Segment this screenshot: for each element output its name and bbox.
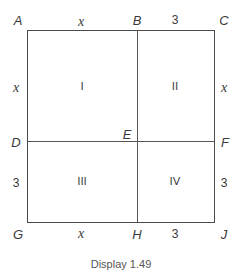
point-C: C: [219, 14, 228, 27]
left-label-x: x: [13, 81, 19, 94]
point-G: G: [13, 228, 23, 241]
horizontal-divider-DF: [27, 141, 215, 142]
point-F: F: [221, 136, 229, 149]
figure-caption: Display 1.49: [91, 258, 152, 271]
point-H: H: [132, 228, 141, 241]
region-IV: IV: [170, 175, 181, 188]
region-II: II: [172, 80, 179, 93]
point-E: E: [123, 128, 132, 141]
vertical-divider-BH: [137, 30, 138, 222]
point-B: B: [133, 14, 142, 27]
point-D: D: [11, 136, 20, 149]
point-J: J: [221, 228, 228, 241]
region-III: III: [77, 175, 87, 188]
top-label-3: 3: [172, 14, 179, 27]
point-A: A: [14, 14, 23, 27]
region-I: I: [80, 80, 83, 93]
outer-square: [27, 30, 215, 223]
right-label-x: x: [221, 81, 227, 94]
top-label-x: x: [78, 15, 84, 28]
left-label-3: 3: [13, 177, 20, 190]
bottom-label-3: 3: [172, 228, 179, 241]
bottom-label-x: x: [78, 227, 84, 240]
right-label-3: 3: [221, 177, 228, 190]
